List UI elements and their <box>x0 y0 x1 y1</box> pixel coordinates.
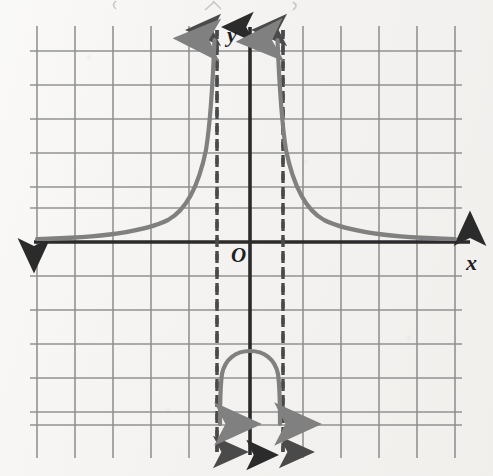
curve-right-branch <box>278 40 456 239</box>
curve-middle-branch-left-side <box>220 351 250 424</box>
origin-label: O <box>231 245 246 266</box>
curve-middle-branch-right-side <box>250 351 280 424</box>
curve-left-branch <box>37 40 215 239</box>
graph-figure: y x O <box>0 0 493 476</box>
coordinate-plane <box>0 0 493 476</box>
y-axis-label: y <box>227 24 237 46</box>
x-axis-label: x <box>466 252 477 274</box>
